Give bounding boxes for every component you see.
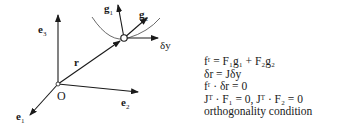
origin-point xyxy=(56,82,60,86)
g1-vector-arrow xyxy=(118,5,124,38)
equation-block: fʳ = F₁g₁ + F₂g₂ δr = Jδy fʳ · δr = 0 Jᵀ… xyxy=(204,55,312,118)
e3-label: e3 xyxy=(38,24,46,38)
e1-label: e1 xyxy=(16,111,24,123)
equation-jacobian: Jᵀ · F₁ = 0, Jᵀ · F₂ = 0 xyxy=(204,93,312,106)
r-vector-arrow xyxy=(58,41,120,84)
equation-caption: orthogonality condition xyxy=(204,105,312,118)
equation-force: fʳ = F₁g₁ + F₂g₂ xyxy=(204,55,312,68)
e2-axis-arrow xyxy=(58,84,138,92)
e2-label: e2 xyxy=(121,97,129,111)
equation-virtual-displacement: δr = Jδy xyxy=(204,68,312,81)
e1-axis-arrow xyxy=(30,84,58,115)
r-label: r xyxy=(74,57,79,68)
equation-virtual-work: fʳ · δr = 0 xyxy=(204,80,312,93)
surface-point xyxy=(121,35,127,41)
origin-label: O xyxy=(57,90,66,102)
g2-label: g2 xyxy=(139,9,148,23)
dy-label: δy xyxy=(160,40,171,51)
g1-label: g1 xyxy=(104,3,113,17)
